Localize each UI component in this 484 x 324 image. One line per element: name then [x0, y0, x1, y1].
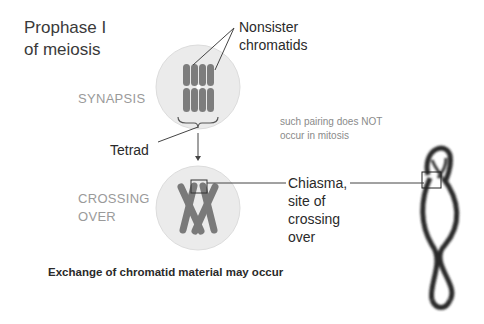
label-chiasma-line-4: over — [288, 228, 347, 246]
mitosis-note-line-1: such pairing does NOT — [280, 115, 382, 129]
mitosis-note-line-2: occur in mitosis — [280, 129, 382, 143]
synapsis-cell — [156, 45, 240, 129]
label-chiasma-line-2: site of — [288, 192, 347, 210]
tetrad-pointer-line — [158, 127, 198, 142]
stage-crossing-over: CROSSING OVER — [78, 190, 150, 226]
label-tetrad: Tetrad — [110, 141, 149, 159]
crossing-over-cell — [156, 166, 240, 250]
stage-crossing-over-line-1: CROSSING — [78, 190, 150, 208]
label-chiasma: Chiasma, site of crossing over — [288, 174, 347, 246]
label-nonsister-line-1: Nonsister — [239, 18, 307, 36]
label-chiasma-line-3: crossing — [288, 210, 347, 228]
arrow-head-icon — [195, 156, 201, 161]
mitosis-note: such pairing does NOT occur in mitosis — [280, 115, 382, 143]
stage-crossing-over-line-2: OVER — [78, 208, 150, 226]
label-nonsister-line-2: chromatids — [239, 36, 307, 54]
stage-synapsis: SYNAPSIS — [78, 90, 145, 108]
label-chiasma-line-1: Chiasma, — [288, 174, 347, 192]
label-nonsister-chromatids: Nonsister chromatids — [239, 18, 307, 54]
caption: Exchange of chromatid material may occur — [48, 266, 283, 278]
